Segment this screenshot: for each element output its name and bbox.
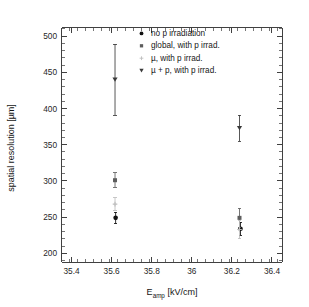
x-tick-label: 35.4 [63, 266, 80, 276]
filled-square-marker [140, 44, 143, 47]
series-0 [113, 212, 242, 235]
x-axis-title: Eamp [kV/cm] [147, 287, 198, 300]
y-axis-ticks [62, 29, 283, 261]
x-axis-tick-labels: 35.435.635.83636.236.4 [63, 266, 280, 276]
data-point [112, 44, 117, 115]
legend: no p irradiationglobal, with p irrad.µ, … [139, 29, 219, 75]
x-tick-label: 35.6 [104, 266, 121, 276]
legend-entry-1: global, with p irrad. [140, 41, 220, 50]
legend-entry-2: µ, with p irrad. [140, 54, 203, 63]
y-tick-label: 250 [43, 212, 57, 222]
x-tick-label: 36.4 [264, 266, 281, 276]
y-tick-label: 400 [43, 104, 57, 114]
series-1 [113, 173, 241, 227]
filled-triangle-down-marker [112, 77, 117, 81]
y-axis-title: spatial resolution [µm] [6, 104, 16, 192]
legend-entry-3: µ + p, with p irrad. [139, 66, 216, 75]
y-tick-label: 350 [43, 140, 57, 150]
data-point [237, 115, 242, 141]
figure-container: 35.435.635.83636.236.4 20025030035040045… [0, 0, 309, 307]
small-cross-marker [140, 56, 144, 60]
data-point [113, 173, 117, 187]
y-tick-label: 200 [43, 248, 57, 258]
filled-circle-marker [140, 32, 144, 36]
data-point [113, 198, 118, 211]
filled-circle-marker [113, 216, 118, 221]
data-point [238, 222, 243, 235]
legend-label: µ, with p irrad. [151, 54, 203, 63]
x-tick-label: 35.8 [144, 266, 161, 276]
filled-square-marker [113, 178, 117, 182]
filled-triangle-down-marker [139, 69, 143, 73]
x-tick-label: 36.2 [224, 266, 241, 276]
legend-label: no p irradiation [151, 29, 206, 38]
scatter-plot: 35.435.635.83636.236.4 20025030035040045… [0, 0, 309, 307]
y-tick-label: 450 [43, 67, 57, 77]
x-tick-label: 36 [187, 266, 197, 276]
legend-label: µ + p, with p irrad. [151, 66, 216, 75]
y-tick-label: 500 [43, 31, 57, 41]
data-point [113, 212, 118, 224]
y-tick-label: 300 [43, 176, 57, 186]
small-cross-marker [113, 202, 118, 207]
data-point [237, 220, 242, 239]
filled-square-marker [238, 216, 242, 220]
y-axis-tick-labels: 200250300350400450500 [43, 31, 57, 258]
filled-triangle-down-marker [237, 126, 242, 130]
series-2 [113, 198, 242, 239]
legend-label: global, with p irrad. [151, 41, 220, 50]
